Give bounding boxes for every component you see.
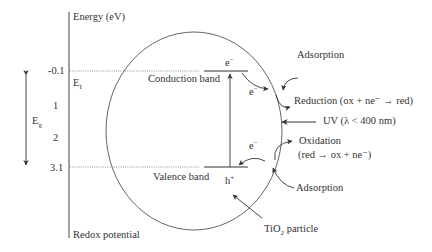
electron-label-vb: e− [249,141,258,152]
electron-label-cb: e− [225,58,234,69]
reduction-arrow [276,95,290,108]
reduction-label: Reduction (ox + ne⁻ → red) [294,96,413,107]
tio2-particle-circle [106,32,282,230]
oxidation-equation-label: (red → ox + ne⁻) [298,150,371,161]
oxidation-label: Oxidation [299,136,341,147]
band-gap-label: Eg [32,116,42,127]
tick-label-cb: -0.1 [48,66,65,77]
uv-label: UV (λ < 400 nm) [323,116,396,127]
tio2-particle-label: TiO2 particle [264,224,318,235]
oxidation-arrow [275,141,292,160]
fermi-level-label: Ef [73,78,82,89]
electron-transfer-arrow-vb [239,158,265,165]
adsorption-top-arrow [283,78,298,90]
particle-pointer-arrow [233,195,262,218]
adsorption-bottom-arrow [273,168,294,188]
redox-axis-label: Redox potential [73,230,140,241]
tick-label-2: 2 [53,133,58,144]
electron-label-surface: e− [249,87,258,98]
energy-axis-label: Energy (eV) [73,12,125,23]
hole-label: h+ [225,176,234,187]
valence-band-label: Valence band [153,172,209,183]
adsorption-bottom-label: Adsorption [296,183,343,194]
conduction-band-label: Conduction band [148,74,220,85]
tick-label-vb: 3.1 [50,163,63,174]
tick-label-1: 1 [53,101,58,112]
adsorption-top-label: Adsorption [297,50,344,61]
